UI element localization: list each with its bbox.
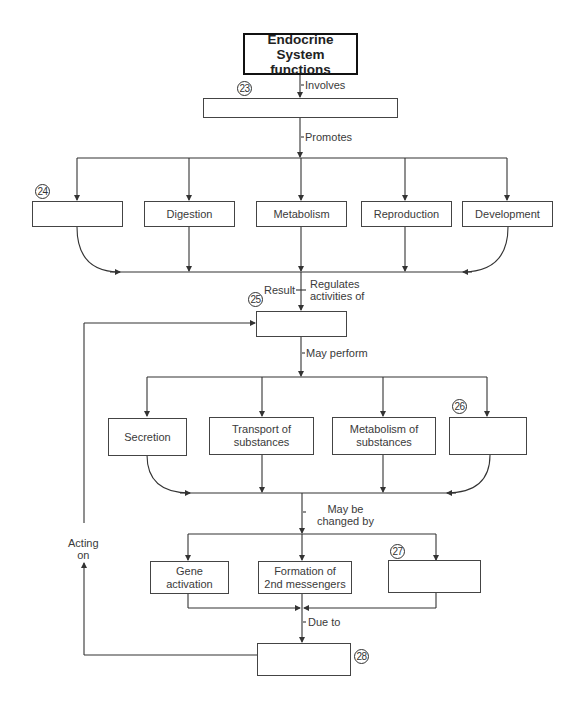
acting-on-line-2: on <box>77 549 89 561</box>
changed-second-messengers-box: Formation of 2nd messengers <box>258 561 352 594</box>
edge-label-involves: Involves <box>305 79 345 92</box>
answer-box-24[interactable] <box>32 201 123 227</box>
edge-label-regulates: Regulates activities of <box>310 278 364 302</box>
answer-box-28[interactable] <box>257 643 351 676</box>
perform-metabolism-line-2: substances <box>356 436 412 449</box>
may-be-changed-line-1: May be <box>327 503 363 515</box>
perform-secretion-line-1: Secretion <box>124 431 170 444</box>
second-messengers-line-2: 2nd messengers <box>264 578 345 591</box>
perform-metabolism-line-1: Metabolism of <box>350 423 418 436</box>
promotes-metabolism-box: Metabolism <box>256 201 347 227</box>
edge-label-may-be-changed: May be changed by <box>317 503 374 527</box>
changed-gene-activation-box: Gene activation <box>150 561 229 594</box>
gene-activation-line-2: activation <box>166 578 212 591</box>
perform-transport-line-1: Transport of <box>232 423 291 436</box>
perform-transport-box: Transport of substances <box>209 417 314 455</box>
endocrine-concept-map: Endocrine System functions Involves 23 P… <box>0 0 583 715</box>
second-messengers-line-1: Formation of <box>274 565 336 578</box>
edge-label-may-perform: May perform <box>306 347 368 360</box>
blank-number-26: 26 <box>452 399 467 414</box>
blank-number-25: 25 <box>248 292 263 307</box>
edge-label-promotes: Promotes <box>305 131 352 144</box>
promotes-digestion-box: Digestion <box>144 201 235 227</box>
edge-label-due-to: Due to <box>308 616 340 629</box>
answer-box-26[interactable] <box>449 417 527 455</box>
blank-number-27: 27 <box>390 544 405 559</box>
title-line-1: Endocrine System <box>245 32 356 62</box>
acting-on-line-1: Acting <box>68 537 99 549</box>
regulates-line-1: Regulates <box>310 278 360 290</box>
gene-activation-line-1: Gene <box>176 565 203 578</box>
answer-box-27[interactable] <box>388 560 481 593</box>
title-line-2: functions <box>270 62 331 77</box>
promotes-development-box: Development <box>462 201 553 227</box>
blank-number-28: 28 <box>354 649 369 664</box>
regulates-line-2: activities of <box>310 290 364 302</box>
answer-box-25[interactable] <box>256 311 347 337</box>
edge-label-acting-on: Acting on <box>68 537 99 561</box>
title-box: Endocrine System functions <box>243 33 358 75</box>
may-be-changed-line-2: changed by <box>317 515 374 527</box>
promotes-reproduction-box: Reproduction <box>361 201 452 227</box>
perform-transport-line-2: substances <box>234 436 290 449</box>
perform-secretion-box: Secretion <box>108 418 187 456</box>
perform-metabolism-box: Metabolism of substances <box>332 417 436 455</box>
edge-label-result: Result <box>264 284 295 297</box>
blank-number-24: 24 <box>35 184 50 199</box>
answer-box-23[interactable] <box>203 98 398 118</box>
blank-number-23: 23 <box>237 81 252 96</box>
